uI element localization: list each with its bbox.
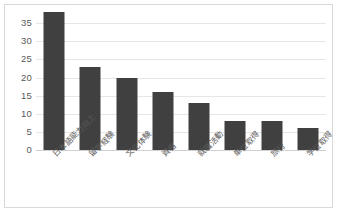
x-label-slot: 単位取得 [217, 151, 253, 207]
x-label-slot: 就職活動 [181, 151, 217, 207]
y-axis-tick-label: 35 [21, 18, 32, 28]
x-label-slot: 旅行 [254, 151, 290, 207]
y-axis-tick-label: 30 [21, 37, 32, 47]
x-axis: 日本語能力向上留学経験文化体験資格就職活動単位取得旅行学位取得 [36, 151, 326, 207]
x-label-slot: 学位取得 [290, 151, 326, 207]
x-label-slot: 日本語能力向上 [36, 151, 72, 207]
x-label-slot: 留学経験 [72, 151, 108, 207]
bar-slot [181, 5, 217, 150]
plot-area: 05101520253035 日本語能力向上留学経験文化体験資格就職活動単位取得… [5, 5, 332, 207]
y-axis: 05101520253035 [5, 5, 35, 150]
y-axis-tick-label: 15 [21, 91, 32, 101]
x-label-slot: 文化体験 [109, 151, 145, 207]
y-axis-tick-label: 25 [21, 55, 32, 65]
bar-slot [109, 5, 145, 150]
y-axis-tick-label: 10 [21, 109, 32, 119]
x-label-slot: 資格 [145, 151, 181, 207]
bar-slot [36, 5, 72, 150]
bar[interactable] [80, 67, 101, 150]
y-axis-tick-label: 20 [21, 73, 32, 83]
bar[interactable] [44, 12, 65, 150]
bar-slot [254, 5, 290, 150]
y-axis-tick-label: 0 [27, 145, 32, 155]
bar-slot [145, 5, 181, 150]
y-axis-tick-label: 5 [27, 127, 32, 137]
chart-container: 05101520253035 日本語能力向上留学経験文化体験資格就職活動単位取得… [4, 4, 333, 208]
bar-slot [290, 5, 326, 150]
bar[interactable] [116, 78, 137, 151]
bar-slot [217, 5, 253, 150]
